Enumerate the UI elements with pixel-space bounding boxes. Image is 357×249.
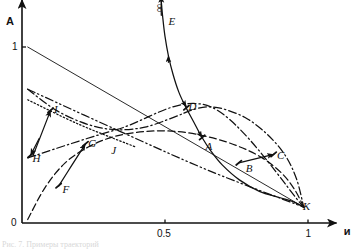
point-label-j: J — [111, 145, 116, 156]
marker-point-G — [83, 142, 88, 146]
figure-caption: Рис. 7. Примеры траекторий — [2, 240, 99, 249]
x-tick-label-05: 0.5 — [157, 229, 171, 239]
x-axis-label: и — [344, 226, 351, 237]
y-axis-label: А — [6, 16, 14, 27]
point-label-i: I — [54, 104, 58, 115]
point-label-d: D — [188, 101, 196, 112]
point-label-k: K — [303, 201, 310, 212]
figure-canvas: А и ∞ 0 0.5 1 1 ABCDEFGHIJK Рис. 7. Прим… — [0, 0, 357, 249]
series-arrow-H-up — [33, 110, 51, 156]
point-label-e: E — [168, 16, 175, 27]
origin-tick-label: 0 — [11, 218, 17, 228]
series-curve-E-D-K-solid — [161, 1, 303, 207]
y-tick-label-1: 1 — [12, 42, 18, 52]
point-label-b: B — [246, 163, 253, 174]
point-label-a: A — [206, 141, 213, 152]
infinity-label: ∞ — [155, 4, 167, 13]
marker-point-F — [56, 183, 61, 187]
point-label-c: C — [277, 150, 284, 161]
point-label-h: H — [33, 153, 41, 164]
point-label-g: G — [88, 138, 96, 149]
point-label-f: F — [63, 184, 70, 195]
x-tick-label-1: 1 — [306, 229, 312, 239]
